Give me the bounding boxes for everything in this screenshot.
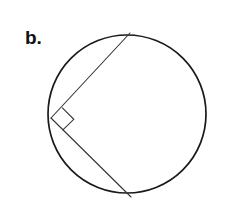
right-angle-marker-icon [62, 108, 74, 131]
chord-upper [51, 33, 130, 118]
figure-label: b. [25, 27, 42, 49]
circle-shape [48, 35, 206, 193]
figure-container: b. [0, 0, 225, 206]
